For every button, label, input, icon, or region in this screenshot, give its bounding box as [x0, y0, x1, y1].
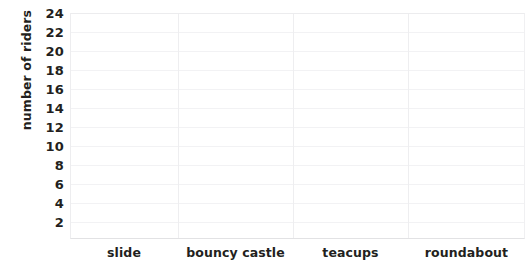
y-tick-label-22: 22 — [28, 26, 64, 39]
x-tick-label-teacups: teacups — [293, 244, 408, 262]
plot-area[interactable] — [70, 13, 525, 239]
y-tick-label-10: 10 — [28, 140, 64, 153]
y-tick-label-6: 6 — [28, 178, 64, 191]
y-axis-tick-labels: 24 22 20 18 16 14 12 10 8 6 4 2 — [28, 5, 64, 238]
y-tick-label-16: 16 — [28, 83, 64, 96]
x-tick-label-slide: slide — [70, 244, 178, 262]
y-tick-label-4: 4 — [28, 197, 64, 210]
y-tick-label-20: 20 — [28, 45, 64, 58]
x-axis-tick-labels: slide bouncy castle teacups roundabout — [70, 244, 525, 266]
y-tick-label-14: 14 — [28, 102, 64, 115]
y-tick-label-2: 2 — [28, 216, 64, 229]
x-tick-label-roundabout: roundabout — [408, 244, 525, 262]
x-tick-label-bouncy-castle: bouncy castle — [178, 244, 293, 262]
bar-chart: number of riders 24 22 20 18 16 14 12 10… — [0, 0, 532, 271]
y-tick-label-8: 8 — [28, 159, 64, 172]
y-tick-label-18: 18 — [28, 64, 64, 77]
y-tick-label-12: 12 — [28, 121, 64, 134]
bars-layer — [70, 13, 525, 239]
y-tick-label-24: 24 — [28, 7, 64, 20]
